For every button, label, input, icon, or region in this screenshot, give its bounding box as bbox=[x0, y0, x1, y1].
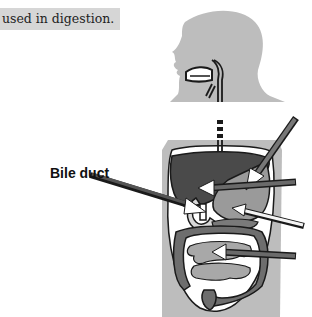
esophagus-dashes bbox=[217, 120, 223, 138]
mouth-icon bbox=[186, 67, 212, 81]
bile-duct-label: Bile duct bbox=[50, 165, 109, 181]
head-silhouette bbox=[170, 11, 285, 102]
digestive-system-figure bbox=[0, 0, 312, 317]
